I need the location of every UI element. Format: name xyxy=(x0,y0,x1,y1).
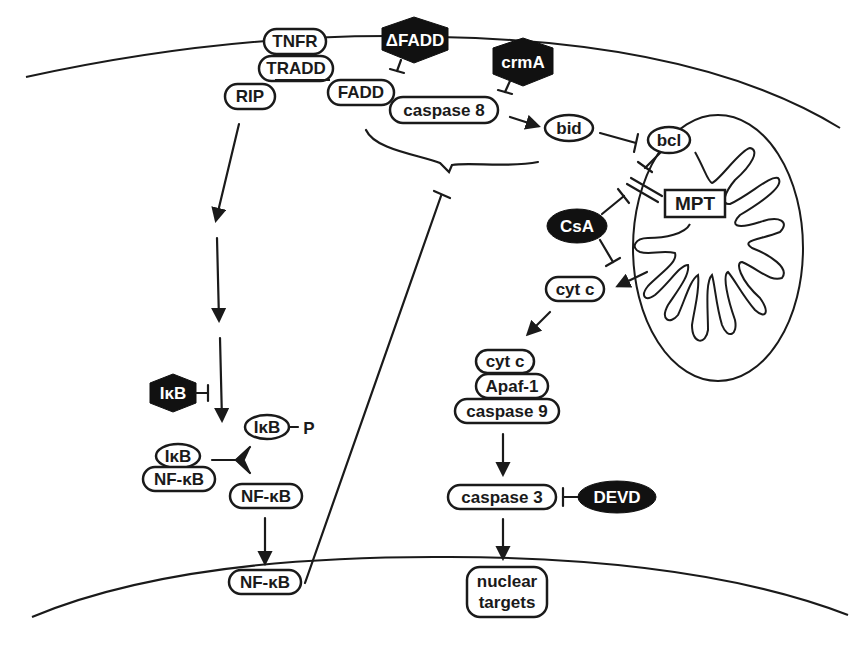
ikb-super-repressor: IκB xyxy=(150,374,196,412)
ikb-complex-node: IκB xyxy=(156,444,200,468)
cytc-free-node: cyt c xyxy=(546,277,604,301)
caspase9-node: caspase 9 xyxy=(455,399,559,423)
fadd-node: FADD xyxy=(328,80,394,105)
svg-text:NF-κB: NF-κB xyxy=(240,573,290,592)
tnfr-node: TNFR xyxy=(264,29,326,54)
devd-inhibitor: DEVD xyxy=(578,481,656,513)
svg-text:IκB: IκB xyxy=(254,418,280,437)
rip-cascade-arrow-1 xyxy=(216,124,239,220)
svg-text:bid: bid xyxy=(556,119,582,138)
ikb-inhibits-cascade xyxy=(196,385,208,401)
nfkb-complex-node: NF-κB xyxy=(143,467,215,491)
delta-fadd-inhibits-fadd xyxy=(390,60,404,73)
csa-inhibits-mpt xyxy=(602,189,629,214)
svg-text:MPT: MPT xyxy=(675,193,716,214)
svg-text:caspase 9: caspase 9 xyxy=(466,402,547,421)
svg-text:NF-κB: NF-κB xyxy=(241,487,291,506)
bcl-inhibits-mpt xyxy=(638,153,660,172)
delta-fadd-inhibitor: ΔFADD xyxy=(382,17,448,63)
svg-text:FADD: FADD xyxy=(338,83,384,102)
svg-text:IκB: IκB xyxy=(165,447,191,466)
svg-text:caspase 3: caspase 3 xyxy=(461,488,542,507)
rip-cascade-arrow-3 xyxy=(220,338,222,420)
devd-inhibits-caspase3 xyxy=(563,488,580,506)
mitochondrion-cristae xyxy=(635,148,784,341)
csa-inhibits-cytc-release xyxy=(600,240,620,266)
nfkb-free-node: NF-κB xyxy=(230,484,302,508)
cytc-complex-node: cyt c xyxy=(476,350,534,373)
svg-text:bcl: bcl xyxy=(657,131,682,150)
apoptosis-pathway-diagram: TNFR TRADD RIP FADD caspase 8 ΔFADD crmA xyxy=(0,0,866,650)
crma-inhibitor: crmA xyxy=(493,38,553,86)
nfkb-inhibits-death-complex xyxy=(305,191,450,583)
mpt-node: MPT xyxy=(665,190,725,217)
caspase3-node: caspase 3 xyxy=(448,485,556,509)
svg-text:ΔFADD: ΔFADD xyxy=(386,31,445,50)
tradd-node: TRADD xyxy=(259,56,333,81)
svg-text:CsA: CsA xyxy=(560,217,594,236)
dissociation-arrow xyxy=(212,447,250,473)
svg-text:Apaf-1: Apaf-1 xyxy=(486,377,539,396)
bcl-node: bcl xyxy=(648,127,690,153)
rip-cascade-arrow-2 xyxy=(217,238,219,320)
ikb-phospho-node: IκB xyxy=(245,415,289,439)
caspase8-node: caspase 8 xyxy=(390,97,498,123)
svg-text:DEVD: DEVD xyxy=(593,488,640,507)
svg-text:targets: targets xyxy=(479,593,536,612)
svg-text:crmA: crmA xyxy=(501,53,544,72)
nfkb-nuclear-node: NF-κB xyxy=(229,570,301,594)
phospho-label: P xyxy=(303,419,314,438)
cytc-to-apoptosome-arrow xyxy=(528,312,550,334)
receptor-complex-brace xyxy=(366,130,538,172)
rip-node: RIP xyxy=(225,84,275,109)
csa-inhibitor: CsA xyxy=(547,209,607,243)
svg-text:cyt c: cyt c xyxy=(556,280,595,299)
caspase8-activates-bid xyxy=(510,117,538,126)
svg-text:IκB: IκB xyxy=(160,384,186,403)
apaf1-node: Apaf-1 xyxy=(476,374,548,398)
svg-text:TRADD: TRADD xyxy=(266,59,326,78)
bid-inhibits-bcl xyxy=(600,133,638,152)
cytc-release-arrow xyxy=(618,272,647,286)
svg-text:cyt c: cyt c xyxy=(486,352,525,371)
svg-text:NF-κB: NF-κB xyxy=(154,470,204,489)
crma-inhibits-caspase8 xyxy=(498,81,512,94)
svg-text:nuclear: nuclear xyxy=(477,572,538,591)
svg-text:RIP: RIP xyxy=(236,87,264,106)
bid-node: bid xyxy=(545,115,593,141)
svg-text:TNFR: TNFR xyxy=(272,32,317,51)
svg-text:caspase 8: caspase 8 xyxy=(403,101,484,120)
nuclear-membrane xyxy=(32,557,848,617)
nuclear-targets-node: nuclear targets xyxy=(467,567,547,617)
